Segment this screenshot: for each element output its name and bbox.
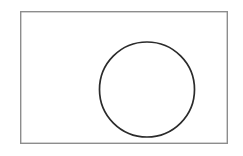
diagram-canvas [0, 0, 243, 156]
diagram-svg [0, 0, 243, 156]
circle-shape [100, 42, 195, 137]
rectangle-shape [21, 12, 228, 144]
